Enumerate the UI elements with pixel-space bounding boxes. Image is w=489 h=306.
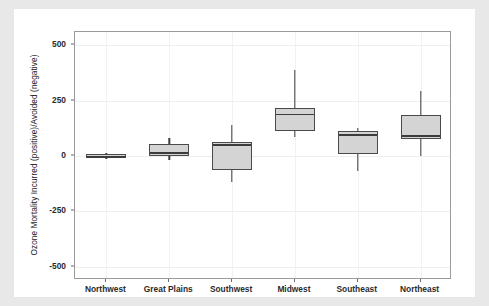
gridline-y [75, 156, 450, 157]
box-iqr [275, 108, 315, 130]
gridline-y [75, 101, 450, 102]
x-tick-label: Great Plains [144, 284, 193, 294]
whisker-lower [294, 131, 295, 138]
box-iqr [86, 154, 126, 158]
whisker-lower [106, 158, 107, 159]
x-axis-tick-marks [74, 279, 451, 283]
whisker-lower [357, 154, 358, 171]
x-tick-mark [168, 279, 169, 282]
x-tick-mark [294, 279, 295, 282]
boxplot-northeast [401, 32, 441, 278]
x-tick-mark [231, 279, 232, 282]
gridline-y [75, 211, 450, 212]
x-tick-label: Northwest [85, 284, 126, 294]
whisker-upper [231, 125, 232, 142]
median-line [402, 135, 440, 137]
x-tick-mark [357, 279, 358, 282]
gridline-y [75, 45, 450, 46]
median-line [87, 156, 125, 158]
x-tick-label: Southeast [337, 284, 378, 294]
x-axis-tick-labels: NorthwestGreat PlainsSouthwestMidwestSou… [74, 284, 451, 298]
whisker-upper [294, 70, 295, 109]
box-iqr [212, 142, 252, 171]
chart-figure: Ozone Mortality Incurred (positive)/Avoi… [14, 9, 475, 297]
whisker-upper [420, 91, 421, 115]
x-tick-label: Southwest [210, 284, 252, 294]
x-tick-label: Midwest [277, 284, 310, 294]
boxplot-great-plains [149, 32, 189, 278]
whisker-lower [169, 156, 170, 160]
median-line [276, 114, 314, 116]
box-iqr [338, 131, 378, 154]
y-tick-label: 0 [61, 150, 66, 160]
plot-panel [74, 31, 451, 279]
whisker-lower [420, 139, 421, 155]
whisker-lower [231, 170, 232, 182]
boxplot-southeast [338, 32, 378, 278]
y-tick-label: 500 [52, 39, 66, 49]
box-iqr [149, 144, 189, 156]
median-line [213, 144, 251, 146]
y-tick-label: -500 [49, 261, 66, 271]
y-tick-label: 250 [52, 95, 66, 105]
x-tick-mark [420, 279, 421, 282]
box-iqr [401, 115, 441, 139]
boxplot-midwest [275, 32, 315, 278]
y-axis-tick-labels: 5002500-250-500 [14, 31, 66, 279]
y-tick-label: -250 [49, 205, 66, 215]
boxplot-northwest [86, 32, 126, 278]
x-tick-label: Northeast [400, 284, 439, 294]
boxplot-southwest [212, 32, 252, 278]
median-line [150, 152, 188, 154]
median-line [339, 134, 377, 136]
gridline-y [75, 267, 450, 268]
x-tick-mark [105, 279, 106, 282]
